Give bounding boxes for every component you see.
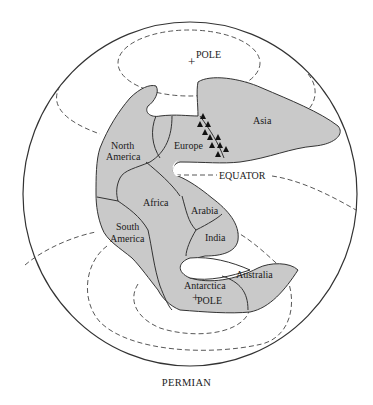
label-africa: Africa bbox=[143, 197, 169, 208]
equator-line-far-right bbox=[272, 176, 356, 210]
label-asia: Asia bbox=[253, 115, 272, 126]
label-australia: Australia bbox=[236, 269, 273, 280]
label-india: India bbox=[205, 232, 226, 243]
label-south-america-1: South bbox=[116, 221, 139, 232]
label-arabia: Arabia bbox=[191, 205, 219, 216]
label-europe: Europe bbox=[174, 140, 203, 151]
north-pole-marker: + bbox=[188, 54, 195, 69]
figure-caption: PERMIAN bbox=[0, 377, 373, 388]
equator-label: EQUATOR bbox=[219, 170, 266, 181]
label-antarctica: Antarctica bbox=[184, 280, 226, 291]
north-pole-label: POLE bbox=[196, 49, 221, 60]
label-north-america-2: America bbox=[106, 151, 141, 162]
south-pole-label: POLE bbox=[197, 295, 222, 306]
permian-globe-map: + POLE + POLE EQUATOR Asia North America… bbox=[0, 0, 373, 405]
label-north-america-1: North bbox=[111, 140, 134, 151]
north-latitude-line bbox=[57, 86, 100, 134]
label-south-america-2: America bbox=[110, 233, 145, 244]
